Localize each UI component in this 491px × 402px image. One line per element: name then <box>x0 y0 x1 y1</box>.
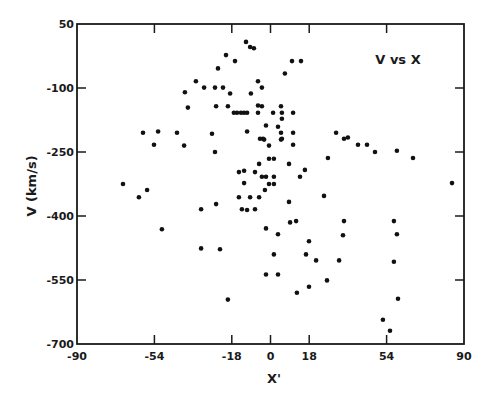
data-point <box>279 131 284 136</box>
data-point <box>213 85 218 90</box>
data-point <box>141 131 146 136</box>
data-point <box>256 79 261 84</box>
data-point <box>160 227 165 232</box>
data-point <box>276 232 281 237</box>
data-point <box>272 157 277 162</box>
data-point <box>226 104 231 109</box>
data-point <box>342 137 347 142</box>
data-point <box>264 272 269 277</box>
x-tick-label: 54 <box>379 350 395 363</box>
y-tick-label: 50 <box>59 18 75 31</box>
data-point <box>304 252 309 257</box>
data-point <box>298 174 303 179</box>
x-tick-label: 18 <box>302 350 317 363</box>
data-point <box>295 291 300 296</box>
chart-title: V vs X <box>375 52 420 67</box>
data-point <box>365 142 370 147</box>
data-point <box>242 181 247 186</box>
data-point <box>224 53 229 58</box>
data-point <box>221 85 226 90</box>
data-point <box>290 59 295 64</box>
data-point <box>392 219 397 224</box>
data-point <box>299 59 304 64</box>
data-point <box>356 142 361 147</box>
data-point <box>267 182 272 187</box>
data-point <box>248 195 253 200</box>
data-point <box>291 131 296 136</box>
x-tick-label: -90 <box>67 350 87 363</box>
data-point <box>216 66 221 71</box>
data-point <box>194 79 199 84</box>
data-point <box>249 91 254 96</box>
data-point <box>256 110 261 115</box>
data-point <box>183 90 188 95</box>
data-point <box>341 233 346 238</box>
data-point <box>235 110 240 115</box>
y-tick-label: -250 <box>46 146 74 159</box>
y-axis-title: V (km/s) <box>24 155 39 216</box>
data-point <box>245 110 250 115</box>
data-point <box>395 232 400 237</box>
data-point <box>233 59 238 64</box>
x-axis-title: X' <box>267 371 281 386</box>
data-point <box>388 329 393 334</box>
data-point <box>156 129 161 134</box>
x-tick-label: -18 <box>222 350 242 363</box>
data-point <box>264 123 269 128</box>
data-point <box>244 40 249 45</box>
data-point <box>257 162 262 167</box>
data-point <box>322 194 327 199</box>
data-point <box>257 195 262 200</box>
data-point <box>121 182 126 187</box>
data-point <box>240 207 245 212</box>
data-point <box>307 285 312 290</box>
data-point <box>256 103 261 108</box>
data-point <box>253 170 258 175</box>
data-point <box>264 174 269 179</box>
data-point <box>199 207 204 212</box>
data-point <box>396 297 401 302</box>
data-point <box>152 142 157 147</box>
data-point <box>411 156 416 161</box>
data-point <box>237 195 242 200</box>
data-point <box>271 110 276 115</box>
data-point <box>291 110 296 115</box>
data-point <box>226 297 231 302</box>
data-point <box>287 162 292 167</box>
data-point <box>395 148 400 153</box>
data-point <box>242 169 247 174</box>
data-point <box>262 137 267 142</box>
data-point <box>175 131 180 136</box>
data-point <box>307 239 312 244</box>
data-point <box>267 157 272 162</box>
data-point <box>213 150 218 155</box>
data-point <box>228 91 233 96</box>
data-point <box>202 85 207 90</box>
data-point <box>264 226 269 231</box>
data-point <box>280 110 285 115</box>
x-tick-label: 0 <box>267 350 275 363</box>
data-point <box>381 317 386 322</box>
y-tick-label: -700 <box>46 338 74 351</box>
data-point <box>199 246 204 251</box>
data-point <box>291 142 296 147</box>
data-point <box>283 71 288 76</box>
data-point <box>346 135 351 140</box>
data-point <box>276 272 281 277</box>
data-point <box>253 207 258 212</box>
data-point <box>272 182 277 187</box>
data-point <box>288 220 293 225</box>
data-point <box>450 181 455 186</box>
data-point <box>245 129 250 134</box>
data-point <box>272 174 277 179</box>
data-point <box>186 105 191 110</box>
data-point <box>334 131 339 136</box>
data-point <box>279 104 284 109</box>
data-point <box>342 219 347 224</box>
data-point <box>392 259 397 264</box>
data-point <box>280 116 285 121</box>
data-point <box>272 252 277 257</box>
data-point <box>260 174 265 179</box>
data-point <box>325 278 330 283</box>
data-point <box>373 150 378 155</box>
